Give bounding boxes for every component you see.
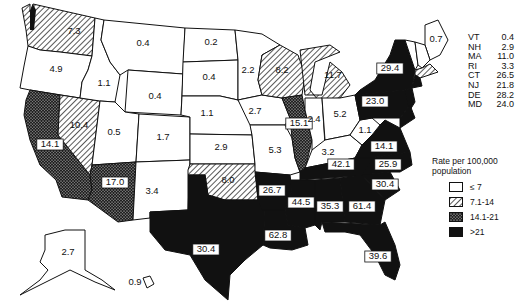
value-label-text: 0.4 [202, 71, 215, 82]
value-label-text: 42.1 [332, 158, 351, 169]
small-state-row: MD24.0 [468, 100, 514, 110]
state-value-label-ak: 2.7 [61, 246, 74, 257]
state-value-label-al: 35.3 [317, 200, 343, 212]
value-label-text: 44.5 [292, 196, 311, 207]
value-label-text: 3.2 [321, 146, 334, 157]
us-choropleth-map: 7.34.914.110.41.10.40.40.517.01.73.40.20… [0, 0, 520, 304]
state-value-label-wa: 7.3 [67, 25, 80, 36]
state-value-label-ga: 61.4 [349, 200, 375, 212]
legend-swatch-white [449, 182, 463, 192]
state-ak [20, 230, 115, 295]
value-label-text: 0.7 [429, 33, 442, 44]
state-value-label-nm: 3.4 [145, 185, 158, 196]
state-value-label-tx: 30.4 [193, 243, 219, 255]
state-value-label-in: 2.4 [307, 113, 320, 124]
state-value-label-ok: 8.0 [221, 174, 234, 185]
value-label-text: 1.1 [97, 77, 110, 88]
legend-swatch-black [449, 227, 463, 237]
state-value-label-az: 17.0 [102, 176, 128, 188]
value-label-text: 61.4 [353, 200, 372, 211]
value-label-text: 29.4 [381, 62, 400, 73]
legend-swatch-hatched [449, 197, 463, 207]
value-label-text: 2.7 [61, 246, 74, 257]
state-value-label-nd: 0.2 [204, 36, 217, 47]
value-label-text: 11.7 [324, 69, 342, 80]
state-value-label-or: 4.9 [49, 63, 62, 74]
state-value-label-sc: 30.4 [372, 178, 398, 190]
value-label-text: 26.7 [263, 184, 282, 195]
legend-label-low: ≤ 7 [470, 182, 482, 192]
state-value-label-mn: 2.2 [241, 64, 254, 75]
value-label-text: 2.2 [241, 64, 254, 75]
state-value-label-mt: 0.4 [136, 37, 149, 48]
state-value-label-nv: 10.4 [70, 119, 89, 130]
legend-item-top: >21 [449, 226, 499, 238]
state-value-label-mi: 11.7 [324, 69, 342, 80]
value-label-text: 0.9 [128, 276, 141, 287]
value-label-text: 5.2 [333, 108, 346, 119]
value-label-text: 1.1 [358, 124, 371, 135]
state-value-label-ar: 26.7 [259, 184, 285, 196]
state-value-label-wi: 8.2 [275, 64, 288, 75]
state-value-label-me: 0.7 [429, 33, 442, 44]
value-label-text: 30.4 [197, 243, 216, 254]
state-value-label-ca: 14.1 [37, 138, 63, 150]
state-value-label-sd: 0.4 [202, 71, 215, 82]
value-label-text: 15.1 [290, 117, 309, 128]
value-label-text: 2.7 [248, 105, 261, 116]
value-label-text: 0.5 [107, 126, 120, 137]
legend: Rate per 100,000 population ≤ 7 7.1-14 1… [432, 157, 499, 241]
value-label-text: 35.3 [321, 200, 340, 211]
state-value-label-oh: 5.2 [333, 108, 346, 119]
value-label-text: 10.4 [70, 119, 89, 130]
state-value-label-tn: 42.1 [328, 158, 354, 170]
value-label-text: 0.4 [148, 90, 161, 101]
legend-label-top: >21 [470, 227, 484, 237]
state-value-label-co: 1.7 [156, 131, 169, 142]
legend-title-line2: population [432, 167, 499, 177]
value-label-text: 2.9 [214, 141, 227, 152]
value-label-text: 0.2 [204, 36, 217, 47]
value-label-text: 8.0 [221, 174, 234, 185]
state-az [88, 162, 136, 222]
legend-swatch-stippled [449, 212, 463, 222]
state-value-label-la: 62.8 [265, 229, 291, 241]
legend-label-mid: 7.1-14 [470, 197, 494, 207]
state-value-label-ms: 44.5 [288, 196, 314, 208]
small-state-value: 24.0 [496, 100, 514, 110]
state-value-label-id: 1.1 [97, 77, 110, 88]
state-value-label-ne: 1.1 [200, 107, 213, 118]
value-label-text: 14.1 [41, 138, 60, 149]
state-ma [415, 64, 438, 78]
value-label-text: 8.2 [275, 64, 288, 75]
legend-item-low: ≤ 7 [449, 181, 499, 193]
state-value-label-ia: 2.7 [248, 105, 261, 116]
value-label-text: 1.1 [200, 107, 213, 118]
state-value-label-wy: 0.4 [148, 90, 161, 101]
value-label-text: 2.4 [307, 113, 320, 124]
state-value-label-va: 14.1 [371, 140, 397, 152]
legend-label-high: 14.1-21 [470, 212, 499, 222]
state-value-label-nc: 25.9 [375, 158, 401, 170]
state-value-label-ny: 29.4 [377, 62, 403, 74]
value-label-text: 4.9 [49, 63, 62, 74]
state-value-label-ks: 2.9 [214, 141, 227, 152]
state-value-label-pa: 23.0 [362, 95, 388, 107]
value-label-text: 3.4 [145, 185, 158, 196]
value-label-text: 39.6 [369, 250, 388, 261]
state-value-label-hi: 0.9 [128, 276, 141, 287]
value-label-text: 30.4 [376, 178, 395, 189]
legend-item-mid: 7.1-14 [449, 196, 499, 208]
value-label-text: 23.0 [366, 95, 385, 106]
state-value-label-ky: 3.2 [321, 146, 334, 157]
value-label-text: 0.4 [136, 37, 149, 48]
state-hi [143, 276, 154, 288]
small-states-table: VT0.4NH2.9MA11.0RI3.3CT26.5NJ21.8DE28.2M… [468, 33, 514, 110]
value-label-text: 25.9 [379, 158, 398, 169]
value-label-text: 14.1 [375, 140, 394, 151]
state-value-label-wv: 1.1 [358, 124, 371, 135]
value-label-text: 1.7 [156, 131, 169, 142]
state-value-label-ut: 0.5 [107, 126, 120, 137]
value-label-text: 17.0 [106, 176, 125, 187]
value-label-text: 5.3 [268, 144, 281, 155]
